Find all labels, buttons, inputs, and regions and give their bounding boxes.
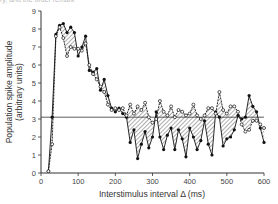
open-data-point	[125, 114, 128, 117]
open-data-point	[121, 107, 124, 110]
filled-data-point	[77, 54, 80, 57]
open-data-point	[114, 107, 117, 110]
filled-data-point	[140, 143, 143, 146]
open-data-point	[118, 109, 121, 112]
open-data-point	[106, 103, 109, 106]
open-data-point	[92, 73, 95, 76]
filled-data-point	[147, 146, 150, 149]
y-tick-label: 4	[32, 97, 36, 106]
open-data-point	[88, 64, 91, 67]
series-line-filled	[48, 24, 264, 172]
y-tick-label: 7	[32, 43, 36, 52]
open-data-point	[188, 112, 191, 115]
y-tick-label: 5	[32, 79, 36, 88]
series-lines	[48, 24, 264, 172]
filled-data-point	[196, 148, 199, 151]
open-data-point	[196, 114, 199, 117]
x-axis-title: Interstimulus interval Δ (ms)	[99, 189, 205, 199]
filled-data-point	[173, 148, 176, 151]
filled-data-point	[244, 116, 247, 119]
filled-data-point	[169, 126, 172, 129]
filled-data-point	[177, 128, 180, 131]
open-data-point	[77, 47, 80, 50]
filled-data-point	[84, 35, 87, 38]
filled-data-point	[181, 137, 184, 140]
open-data-point	[144, 101, 147, 104]
open-data-point	[151, 121, 154, 124]
filled-data-point	[51, 116, 54, 119]
filled-data-point	[73, 31, 76, 34]
open-data-point	[155, 118, 158, 121]
open-data-point	[225, 112, 228, 115]
open-data-point	[54, 35, 57, 38]
open-data-point	[259, 123, 262, 126]
open-data-point	[140, 109, 143, 112]
filled-data-point	[151, 135, 154, 138]
open-data-point	[147, 116, 150, 119]
x-tick-label: 0	[39, 177, 43, 186]
filled-data-point	[129, 141, 132, 144]
open-data-point	[203, 114, 206, 117]
filled-data-point	[155, 110, 158, 113]
x-tick-label: 100	[72, 177, 85, 186]
open-data-point	[62, 37, 65, 40]
filled-data-point	[65, 31, 68, 34]
y-tick-label: 6	[32, 61, 36, 70]
open-data-point	[103, 91, 106, 94]
filled-data-point	[240, 117, 243, 120]
open-data-point	[51, 143, 54, 146]
filled-data-point	[248, 94, 251, 97]
filled-data-point	[192, 135, 195, 138]
filled-data-point	[99, 89, 102, 92]
filled-data-point	[207, 143, 210, 146]
x-tick-label: 200	[109, 177, 122, 186]
open-data-point	[58, 26, 61, 29]
filled-data-point	[225, 137, 228, 140]
filled-data-point	[229, 135, 232, 138]
open-data-point	[66, 55, 69, 58]
filled-data-point	[69, 26, 72, 29]
open-data-point	[110, 109, 113, 112]
open-data-point	[248, 128, 251, 131]
filled-data-point	[251, 105, 254, 108]
filled-data-point	[143, 130, 146, 133]
open-data-point	[99, 85, 102, 88]
filled-data-point	[95, 67, 98, 70]
open-data-point	[170, 105, 173, 108]
open-data-point	[162, 110, 165, 113]
hatched-difference-area	[48, 24, 264, 172]
y-tick-label: 3	[32, 115, 36, 124]
y-tick-label: 1	[32, 151, 36, 160]
open-data-point	[236, 110, 239, 113]
filled-data-point	[136, 157, 139, 160]
open-data-point	[229, 105, 232, 108]
filled-data-point	[166, 134, 169, 137]
open-data-point	[84, 42, 87, 45]
x-tick-label: 400	[183, 177, 196, 186]
filled-data-point	[236, 114, 239, 117]
open-data-point	[222, 109, 225, 112]
filled-data-point	[259, 126, 262, 129]
open-data-point	[184, 114, 187, 117]
open-data-point	[132, 112, 135, 115]
filled-data-point	[114, 110, 117, 113]
open-data-point	[95, 78, 98, 81]
open-data-point	[210, 107, 213, 110]
line-chart: 01234567890100200300400500600 Interstimu…	[0, 0, 278, 204]
open-data-point	[214, 112, 217, 115]
open-data-point	[80, 49, 83, 52]
filled-data-point	[132, 128, 135, 131]
open-data-point	[181, 110, 184, 113]
x-tick-label: 500	[221, 177, 234, 186]
open-data-point	[136, 105, 139, 108]
filled-data-point	[218, 116, 221, 119]
open-data-point	[263, 127, 266, 130]
y-tick-label: 8	[32, 25, 36, 34]
open-data-point	[192, 103, 195, 106]
open-data-point	[73, 47, 76, 50]
y-axis-title: Population spike amplitude	[4, 40, 14, 143]
open-data-point	[177, 109, 180, 112]
filled-data-point	[162, 148, 165, 151]
open-data-point	[47, 170, 50, 173]
open-data-point	[69, 46, 72, 49]
